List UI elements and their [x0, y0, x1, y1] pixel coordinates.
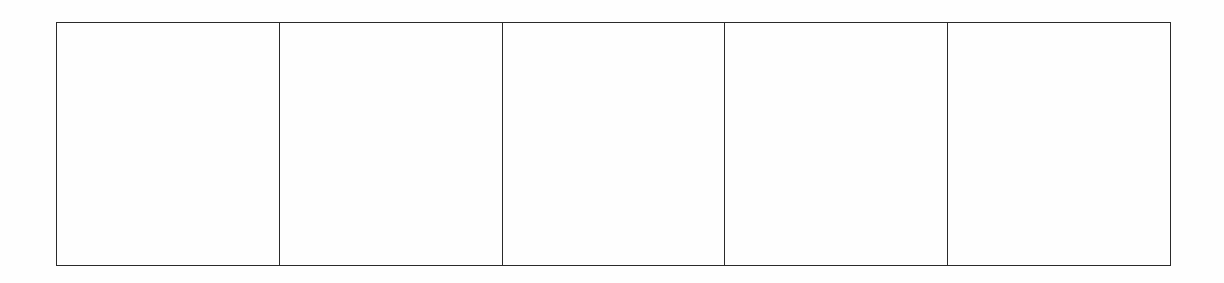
empty-box-4	[725, 23, 948, 265]
empty-box-1	[57, 23, 280, 265]
empty-box-5	[948, 23, 1170, 265]
empty-box-2	[280, 23, 503, 265]
empty-box-3	[503, 23, 726, 265]
document-page	[0, 0, 1224, 283]
box-row	[56, 22, 1171, 266]
